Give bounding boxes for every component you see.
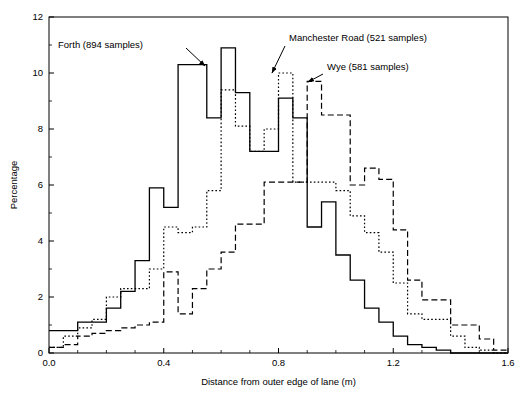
x-axis-title: Distance from outer edge of lane (m) xyxy=(201,376,356,387)
annotation-label: Forth (894 samples) xyxy=(58,39,143,50)
x-tick-label: 0.4 xyxy=(157,357,170,368)
x-tick-label: 0.8 xyxy=(272,357,285,368)
y-tick-label: 6 xyxy=(38,179,43,190)
y-tick-label: 10 xyxy=(32,67,43,78)
series-annotation: Wye (581 samples) xyxy=(308,61,409,82)
y-tick-label: 8 xyxy=(38,123,43,134)
y-tick-label: 4 xyxy=(38,235,43,246)
annotation-leader-line xyxy=(272,46,285,73)
annotation-label: Wye (581 samples) xyxy=(327,61,409,72)
x-tick-label: 1.6 xyxy=(501,357,514,368)
annotation-label: Manchester Road (521 samples) xyxy=(289,32,427,43)
annotation-leader-line xyxy=(186,48,205,66)
x-tick-label: 0.0 xyxy=(42,357,55,368)
series-annotation: Forth (894 samples) xyxy=(58,39,205,66)
plot-frame xyxy=(49,17,508,353)
y-tick-label: 2 xyxy=(38,291,43,302)
y-tick-label: 12 xyxy=(32,11,43,22)
histogram-chart: 0246810120.00.40.81.21.6Distance from ou… xyxy=(0,0,525,402)
y-axis-title: Percentage xyxy=(8,161,19,210)
chart-figure: 0246810120.00.40.81.21.6Distance from ou… xyxy=(0,0,525,402)
x-tick-label: 1.2 xyxy=(387,357,400,368)
series-line-1 xyxy=(49,48,508,353)
